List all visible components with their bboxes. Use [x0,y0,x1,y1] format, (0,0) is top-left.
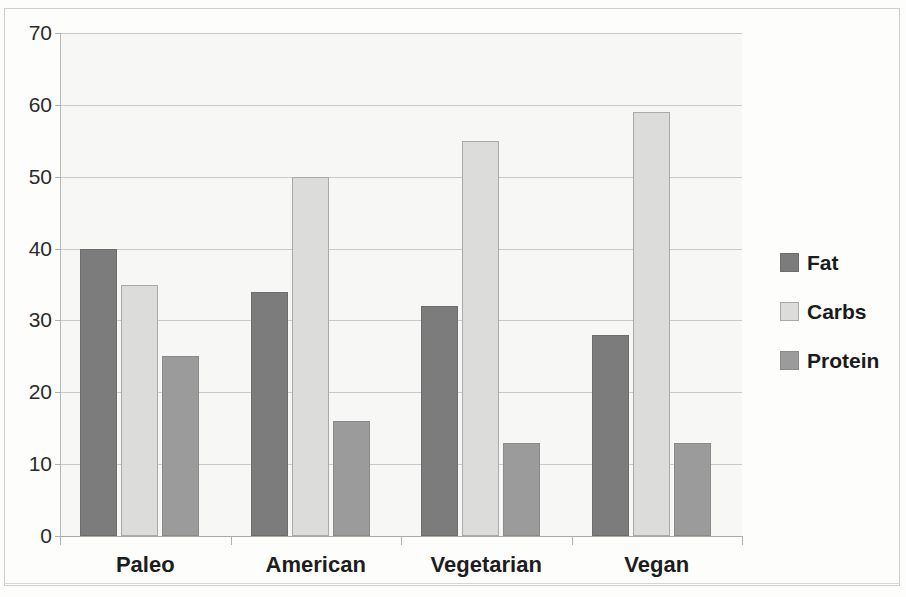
gridline [61,105,742,106]
legend-label: Protein [807,349,879,373]
y-axis-tick-label: 60 [6,94,52,115]
x-axis-tick-mark [60,537,61,545]
bar-vegan-carbs [633,112,670,536]
x-axis-label-american: American [231,552,402,578]
y-axis-tick-label: 30 [6,309,52,330]
gridline [61,33,742,34]
x-axis-tick-mark [572,537,573,545]
bar-vegetarian-fat [421,306,458,536]
x-axis-tick-mark [231,537,232,545]
y-axis-tick-mark [55,33,61,34]
legend-swatch-carbs-icon [780,302,799,321]
legend-item-protein[interactable]: Protein [780,336,900,385]
bar-vegetarian-carbs [462,141,499,536]
x-axis-tick-mark [401,537,402,545]
x-axis-label-paleo: Paleo [60,552,231,578]
bar-vegan-fat [592,335,629,536]
y-axis-tick-label: 10 [6,453,52,474]
legend-label: Fat [807,251,839,275]
y-axis-tick-label: 20 [6,381,52,402]
y-axis-tick-label: 50 [6,166,52,187]
plot-area [60,33,742,536]
chart-figure: the page behind shows faint lines of tex… [0,0,906,597]
bar-paleo-carbs [121,285,158,537]
y-axis-tick-mark [55,177,61,178]
y-axis-tick-mark [55,105,61,106]
bar-paleo-fat [80,249,117,536]
bar-paleo-protein [162,356,199,536]
y-axis-tick-mark [55,464,61,465]
bar-american-fat [251,292,288,536]
legend-label: Carbs [807,300,867,324]
y-axis-tick-label: 70 [6,22,52,43]
bar-vegan-protein [674,443,711,536]
y-axis: 010203040506070 [0,0,52,597]
bar-american-protein [333,421,370,536]
x-axis-label-vegetarian: Vegetarian [401,552,572,578]
y-axis-tick-label: 0 [6,525,52,546]
y-axis-tick-mark [55,249,61,250]
legend: FatCarbsProtein [780,238,900,385]
legend-swatch-protein-icon [780,351,799,370]
bar-vegetarian-protein [503,443,540,536]
figure-border-bottom [4,583,900,584]
y-axis-tick-mark [55,320,61,321]
x-axis-label-vegan: Vegan [572,552,743,578]
legend-swatch-fat-icon [780,253,799,272]
x-axis-tick-mark [742,537,743,545]
y-axis-tick-label: 40 [6,238,52,259]
legend-item-fat[interactable]: Fat [780,238,900,287]
bar-american-carbs [292,177,329,536]
y-axis-tick-mark [55,392,61,393]
legend-item-carbs[interactable]: Carbs [780,287,900,336]
